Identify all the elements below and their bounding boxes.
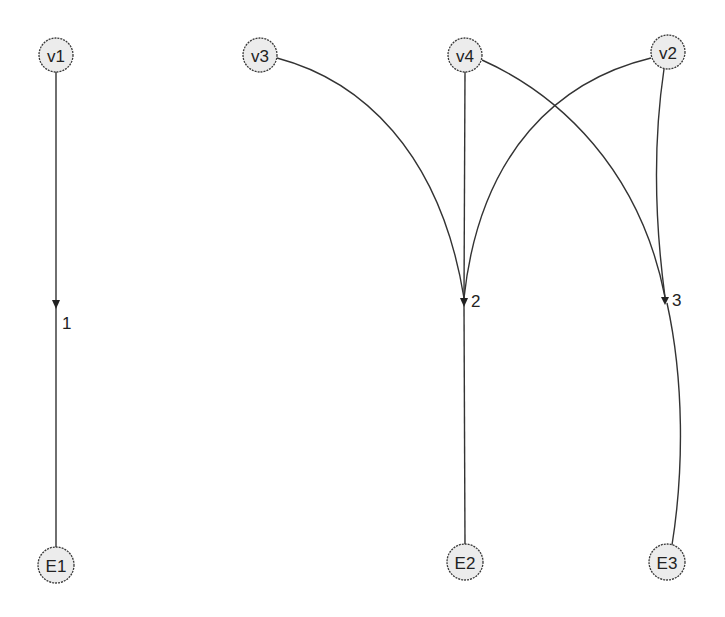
junction-label-2: 2 xyxy=(471,292,480,311)
edge-v4-3 xyxy=(482,60,665,297)
node-v1[interactable]: v1 xyxy=(39,38,73,72)
node-E1-label: E1 xyxy=(46,557,67,576)
edge-v4-2 xyxy=(464,72,465,298)
edge-2-E2 xyxy=(464,305,465,545)
node-v4-label: v4 xyxy=(456,47,474,66)
node-v3-label: v3 xyxy=(251,47,269,66)
node-v1-label: v1 xyxy=(47,47,65,66)
edge-v2-2 xyxy=(464,58,651,298)
arrowheads xyxy=(52,297,669,309)
junction-labels: 1 2 3 xyxy=(62,291,681,333)
node-E2[interactable]: E2 xyxy=(447,544,483,580)
edge-v2-3 xyxy=(657,69,665,297)
node-v4[interactable]: v4 xyxy=(448,38,482,72)
node-v2-label: v2 xyxy=(659,44,677,63)
node-E1[interactable]: E1 xyxy=(38,547,74,583)
edges xyxy=(56,58,680,548)
node-E3-label: E3 xyxy=(657,554,678,573)
edge-v3-2 xyxy=(277,58,464,298)
graph-canvas: 1 2 3 v1 v3 v4 v2 E1 E2 E3 xyxy=(0,0,725,617)
node-v3[interactable]: v3 xyxy=(243,38,277,72)
node-v2[interactable]: v2 xyxy=(651,35,685,69)
node-E2-label: E2 xyxy=(455,554,476,573)
node-E3[interactable]: E3 xyxy=(649,544,685,580)
arrow-1-icon xyxy=(52,300,60,309)
edge-3-E3 xyxy=(667,303,680,545)
junction-label-3: 3 xyxy=(672,291,681,310)
junction-label-1: 1 xyxy=(62,314,71,333)
arrow-2-icon xyxy=(460,298,468,307)
